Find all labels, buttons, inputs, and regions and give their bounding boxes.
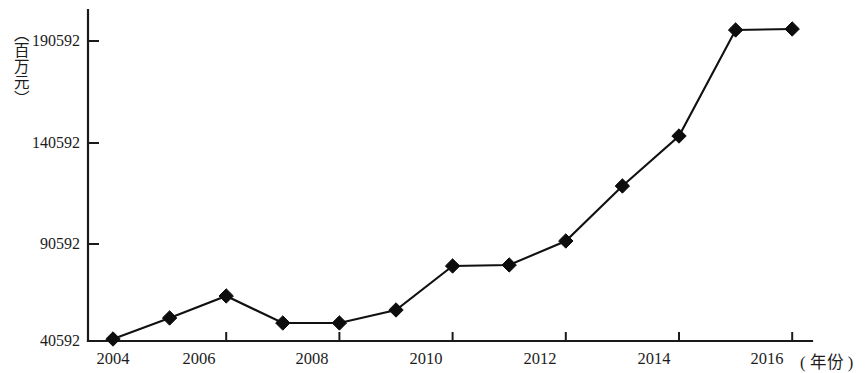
line-chart: （百万元） 190592 140592 90592 40592 2004 200… <box>0 0 868 373</box>
data-point-2006 <box>219 289 233 303</box>
data-point-2016 <box>785 22 799 36</box>
data-point-2005 <box>162 311 176 325</box>
plot-area <box>0 0 868 373</box>
data-point-2008 <box>332 316 346 330</box>
data-point-2007 <box>276 316 290 330</box>
data-point-2011 <box>502 258 516 272</box>
y-axis-ticks <box>88 41 99 244</box>
data-line <box>113 29 792 339</box>
data-markers <box>106 22 800 346</box>
data-point-2015 <box>728 23 742 37</box>
data-point-2004 <box>106 332 120 346</box>
x-axis-ticks <box>226 332 792 341</box>
